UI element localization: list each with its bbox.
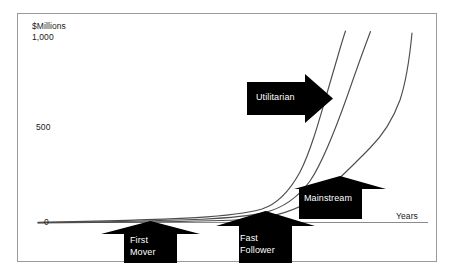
- annotation-fast-follower-label: Fast Follower: [240, 233, 275, 256]
- annotation-utilitarian: Utilitarian: [247, 74, 333, 123]
- x-axis-label: Years: [396, 211, 418, 222]
- y-axis-tick-0: 0: [44, 217, 49, 228]
- y-axis-tick-1000: 1,000: [32, 32, 54, 43]
- y-axis-tick-500: 500: [36, 122, 50, 133]
- figure-container: $Millions 1,000 500 0 Years Utilitarian …: [0, 0, 454, 279]
- annotation-first-mover-label: First Mover: [130, 235, 156, 258]
- annotation-first-mover: First Mover: [101, 221, 200, 263]
- y-axis-unit-label: $Millions: [32, 21, 66, 32]
- annotation-mainstream-label: Mainstream: [304, 193, 352, 205]
- annotation-utilitarian-label: Utilitarian: [256, 92, 295, 104]
- annotation-fast-follower: Fast Follower: [216, 211, 315, 263]
